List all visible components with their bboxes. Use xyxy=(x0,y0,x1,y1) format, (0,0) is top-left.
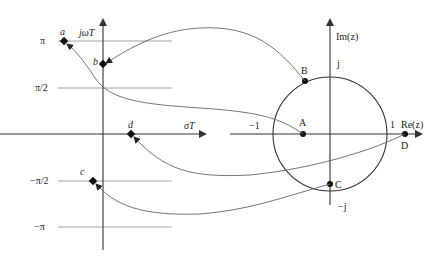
s-to-z-mapping-diagram: jωT σT π π/2 −π/2 −π a b c d Im(z) Re(z)… xyxy=(0,0,447,268)
point-label-C: C xyxy=(335,179,342,190)
mapping-curve-B-to-b xyxy=(106,28,305,81)
point-label-A: A xyxy=(299,117,307,128)
point-b xyxy=(99,60,107,68)
point-label-D: D xyxy=(401,140,408,151)
z-vertical-axis-label: Im(z) xyxy=(336,31,358,43)
z-horizontal-axis-label: Re(z) xyxy=(401,119,423,131)
point-label-a: a xyxy=(60,26,65,37)
tick-label-one: 1 xyxy=(390,119,395,130)
point-label-d: d xyxy=(128,119,134,130)
point-d xyxy=(127,130,135,138)
mapping-curve-D-to-d xyxy=(134,134,405,176)
tick-label-j: j xyxy=(336,58,340,69)
s-vertical-axis-label: jωT xyxy=(77,27,96,38)
s-plane: jωT σT π π/2 −π/2 −π a b c d xyxy=(0,20,205,250)
tick-label-neg-pi: −π xyxy=(34,221,45,232)
s-horizontal-axis-label: σT xyxy=(184,120,196,131)
tick-label-half-pi: π/2 xyxy=(35,82,48,93)
point-c xyxy=(89,177,97,185)
point-label-B: B xyxy=(301,65,308,76)
point-label-b: b xyxy=(93,56,98,67)
tick-label-neg-half-pi: −π/2 xyxy=(30,175,48,186)
mapping-curve-C-to-c xyxy=(96,184,330,214)
point-a xyxy=(60,37,68,45)
tick-label-neg-one: −1 xyxy=(249,120,260,131)
mapping-curves xyxy=(67,28,405,214)
tick-label-neg-j: −j xyxy=(338,201,346,212)
tick-label-pi: π xyxy=(40,35,45,46)
z-plane: Im(z) Re(z) j −j −1 1 A B C D xyxy=(230,20,423,212)
point-label-c: c xyxy=(80,166,85,177)
